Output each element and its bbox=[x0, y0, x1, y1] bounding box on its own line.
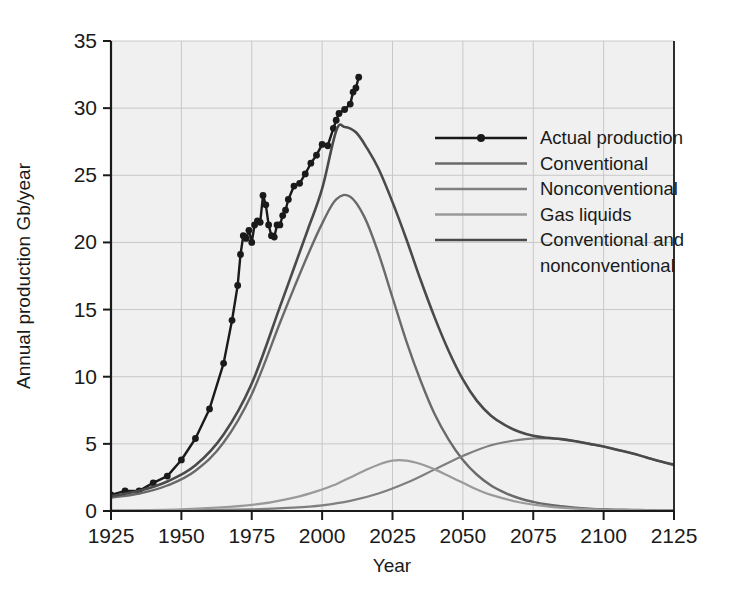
data-point-marker bbox=[248, 239, 255, 246]
data-point-marker bbox=[282, 207, 289, 214]
y-tick-label: 5 bbox=[85, 432, 97, 455]
legend-label: Actual production bbox=[540, 127, 683, 148]
y-tick-label: 15 bbox=[74, 298, 97, 321]
x-tick-label: 1950 bbox=[158, 524, 205, 547]
y-axis-title: Annual production Gb/year bbox=[13, 162, 34, 389]
data-point-marker bbox=[313, 152, 320, 159]
data-point-marker bbox=[307, 160, 314, 167]
x-tick-label: 2125 bbox=[651, 524, 698, 547]
data-point-marker bbox=[296, 180, 303, 187]
data-point-marker bbox=[262, 201, 269, 208]
x-tick-label: 2025 bbox=[369, 524, 416, 547]
x-tick-label: 1975 bbox=[228, 524, 275, 547]
data-point-marker bbox=[206, 406, 213, 413]
x-tick-label: 2100 bbox=[580, 524, 627, 547]
data-point-marker bbox=[341, 106, 348, 113]
y-tick-label: 35 bbox=[74, 29, 97, 52]
legend-label: Gas liquids bbox=[540, 204, 632, 225]
x-tick-label: 2050 bbox=[440, 524, 487, 547]
data-point-marker bbox=[302, 171, 309, 178]
data-point-marker bbox=[271, 234, 278, 241]
data-point-marker bbox=[192, 435, 199, 442]
data-point-marker bbox=[220, 360, 227, 367]
legend-label: Conventional bbox=[540, 153, 648, 174]
data-point-marker bbox=[164, 473, 171, 480]
data-point-marker bbox=[265, 222, 272, 229]
data-point-marker bbox=[319, 141, 326, 148]
legend-marker-icon bbox=[477, 134, 485, 142]
data-point-marker bbox=[353, 85, 360, 92]
data-point-marker bbox=[234, 282, 241, 289]
legend-label: Nonconventional bbox=[540, 178, 678, 199]
x-tick-label: 2075 bbox=[510, 524, 557, 547]
data-point-marker bbox=[178, 457, 185, 464]
data-point-marker bbox=[243, 235, 250, 242]
data-point-marker bbox=[277, 222, 284, 229]
data-point-marker bbox=[347, 101, 354, 108]
production-line-chart: 0510152025303519251950197520002025205020… bbox=[0, 0, 729, 596]
data-point-marker bbox=[336, 110, 343, 117]
data-point-marker bbox=[260, 192, 267, 199]
data-point-marker bbox=[246, 227, 253, 234]
chart-figure: 0510152025303519251950197520002025205020… bbox=[0, 0, 729, 596]
legend-label: Conventional and bbox=[540, 229, 684, 250]
data-point-marker bbox=[229, 317, 236, 324]
data-point-marker bbox=[333, 117, 340, 124]
y-tick-label: 20 bbox=[74, 230, 97, 253]
x-tick-label: 1925 bbox=[88, 524, 135, 547]
y-tick-label: 30 bbox=[74, 96, 97, 119]
x-tick-label: 2000 bbox=[299, 524, 346, 547]
data-point-marker bbox=[285, 196, 292, 203]
data-point-marker bbox=[237, 251, 244, 258]
data-point-marker bbox=[257, 219, 264, 226]
y-tick-label: 25 bbox=[74, 163, 97, 186]
data-point-marker bbox=[324, 142, 331, 149]
y-tick-label: 0 bbox=[85, 499, 97, 522]
x-axis-title: Year bbox=[373, 555, 412, 576]
legend-label: nonconventional bbox=[540, 255, 675, 276]
data-point-marker bbox=[355, 74, 362, 81]
y-tick-label: 10 bbox=[74, 365, 97, 388]
